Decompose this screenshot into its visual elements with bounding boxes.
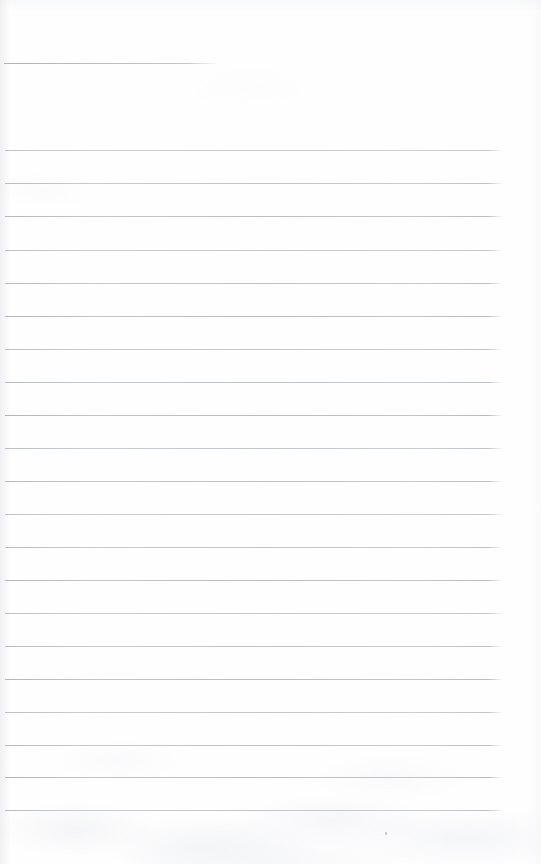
rule-line	[5, 250, 503, 251]
rule-line	[5, 316, 503, 317]
rule-line	[5, 283, 503, 284]
rule-line	[5, 646, 503, 647]
rule-line	[5, 810, 503, 811]
rule-line-partial	[4, 63, 219, 64]
ruled-lines-layer	[0, 0, 541, 864]
rule-line	[5, 481, 503, 482]
rule-line	[5, 216, 503, 217]
rule-line	[5, 547, 503, 548]
rule-line	[5, 183, 503, 184]
rule-line	[5, 777, 503, 778]
rule-line	[5, 580, 503, 581]
rule-line	[5, 679, 503, 680]
scan-speck	[385, 832, 387, 835]
rule-line	[5, 613, 503, 614]
rule-line	[5, 415, 503, 416]
rule-line	[5, 448, 503, 449]
rule-line	[5, 349, 503, 350]
rule-line	[5, 745, 503, 746]
rule-line	[5, 150, 503, 151]
rule-line	[5, 382, 503, 383]
scanned-page	[0, 0, 541, 864]
rule-line	[5, 514, 503, 515]
rule-line	[5, 712, 503, 713]
